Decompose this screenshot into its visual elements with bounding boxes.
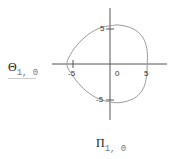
x-tick-label-5: 5 (144, 69, 148, 78)
y-label-underline (8, 78, 36, 79)
x-axis-subscript: 1, 0 (105, 144, 127, 154)
x-tick-label-0: 0 (115, 69, 119, 78)
y-tick-label-neg5: -5 (96, 95, 103, 104)
y-axis-label: Θ1, 0 (8, 60, 38, 75)
y-axis-subscript: 1, 0 (17, 68, 39, 78)
x-tick-label-neg5: -5 (68, 69, 75, 78)
plot-area (0, 0, 169, 159)
x-axis-label: Π1, 0 (96, 136, 126, 151)
y-tick-label-5: 5 (100, 24, 104, 33)
y-axis-symbol: Θ (8, 60, 17, 74)
x-axis-symbol: Π (96, 136, 105, 150)
